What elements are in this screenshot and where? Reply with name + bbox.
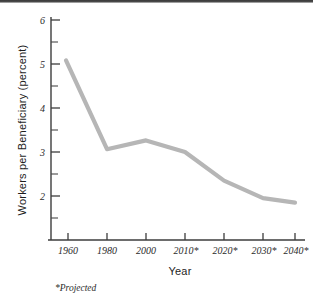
x-tick-label-2030: 2030* bbox=[252, 245, 277, 256]
x-tick-label-2000: 2000 bbox=[136, 245, 156, 256]
chart-figure: 6 5 4 3 2 1960 1980 2000 2010* 2020* 203… bbox=[0, 0, 313, 300]
x-axis-tick-labels: 1960 1980 2000 2010* 2020* 2030* 2040* bbox=[58, 245, 309, 256]
line-chart-canvas: 6 5 4 3 2 1960 1980 2000 2010* 2020* 203… bbox=[0, 0, 313, 300]
y-tick-label-2: 2 bbox=[40, 191, 45, 202]
axis-lines bbox=[48, 17, 305, 240]
y-tick-label-6: 6 bbox=[40, 15, 45, 26]
y-axis-title: Workers per Beneficiary (percent) bbox=[16, 45, 28, 216]
y-axis-major-ticks bbox=[51, 20, 60, 196]
y-axis-minor-ticks bbox=[51, 42, 58, 218]
x-tick-label-1960: 1960 bbox=[58, 245, 78, 256]
y-tick-label-3: 3 bbox=[39, 147, 45, 158]
y-tick-label-4: 4 bbox=[40, 103, 45, 114]
footnote-projected: *Projected bbox=[55, 283, 97, 293]
data-series-line bbox=[66, 60, 295, 202]
y-axis-tick-labels: 6 5 4 3 2 bbox=[39, 15, 45, 202]
x-tick-label-2020: 2020* bbox=[213, 245, 238, 256]
x-tick-label-2040: 2040* bbox=[284, 245, 309, 256]
x-axis-ticks bbox=[68, 233, 295, 240]
x-tick-label-1980: 1980 bbox=[97, 245, 117, 256]
x-axis-title: Year bbox=[168, 265, 191, 277]
x-tick-label-2010: 2010* bbox=[174, 245, 199, 256]
y-tick-label-5: 5 bbox=[40, 59, 45, 70]
